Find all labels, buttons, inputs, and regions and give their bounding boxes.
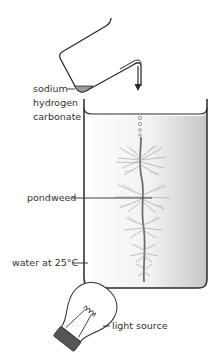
label-water: water at 25°C <box>12 256 78 270</box>
label-hydrogen: hydrogen <box>33 96 78 110</box>
label-pondweed: pondweed <box>27 191 76 205</box>
label-sodium: sodium <box>33 82 68 96</box>
pouring-container <box>60 18 141 92</box>
label-carbonate: carbonate <box>33 110 81 124</box>
label-light-source: light source <box>112 319 168 333</box>
diagram-canvas <box>0 0 217 364</box>
